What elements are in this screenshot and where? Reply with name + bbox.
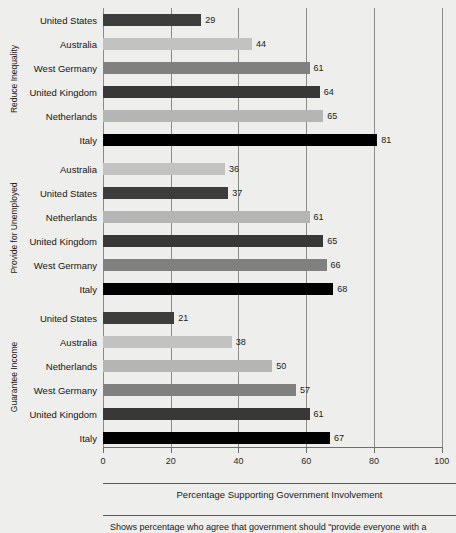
bar xyxy=(103,312,174,324)
x-axis-title: Percentage Supporting Government Involve… xyxy=(103,489,456,500)
bar-row: United States29 xyxy=(0,8,456,32)
bar-chart: 020406080100 Reduce InequalityUnited Sta… xyxy=(0,0,456,533)
bar-row: Netherlands61 xyxy=(0,205,456,229)
tick-label-40: 40 xyxy=(233,456,243,466)
bar-value-label: 36 xyxy=(229,164,239,174)
bar-row: Australia38 xyxy=(0,330,456,354)
bar xyxy=(103,62,310,74)
bar-value-label: 64 xyxy=(324,87,334,97)
bar-row: Netherlands65 xyxy=(0,104,456,128)
bar-row: Netherlands50 xyxy=(0,354,456,378)
tick-label-20: 20 xyxy=(166,456,176,466)
bar-row: United States21 xyxy=(0,306,456,330)
bar-row: West Germany57 xyxy=(0,378,456,402)
bar-category-label: Australia xyxy=(60,164,97,175)
bar-value-label: 61 xyxy=(314,212,324,222)
bar xyxy=(103,408,310,420)
bar-row: Italy68 xyxy=(0,277,456,301)
bar-row: Italy67 xyxy=(0,426,456,450)
bar-row: Italy81 xyxy=(0,128,456,152)
bar-category-label: Italy xyxy=(80,284,97,295)
bar-value-label: 37 xyxy=(232,188,242,198)
bar-category-label: West Germany xyxy=(34,63,97,74)
axis-title-rule-top xyxy=(103,483,456,484)
chart-footnote: Shows percentage who agree that governme… xyxy=(110,521,456,533)
bar xyxy=(103,259,327,271)
bar-category-label: Australia xyxy=(60,337,97,348)
bar-category-label: Italy xyxy=(80,433,97,444)
bar-value-label: 66 xyxy=(331,260,341,270)
bar-row: Australia44 xyxy=(0,32,456,56)
bar xyxy=(103,360,272,372)
bar-category-label: United Kingdom xyxy=(29,409,97,420)
bar xyxy=(103,384,296,396)
bar xyxy=(103,38,252,50)
bar xyxy=(103,187,228,199)
bar-category-label: Netherlands xyxy=(46,361,97,372)
bar-category-label: Netherlands xyxy=(46,212,97,223)
bar-category-label: Australia xyxy=(60,39,97,50)
bar-value-label: 61 xyxy=(314,63,324,73)
bar-value-label: 44 xyxy=(256,39,266,49)
bar xyxy=(103,86,320,98)
bar-value-label: 50 xyxy=(276,361,286,371)
bar-category-label: Netherlands xyxy=(46,111,97,122)
bar-row: United Kingdom65 xyxy=(0,229,456,253)
bar-row: United Kingdom64 xyxy=(0,80,456,104)
bar xyxy=(103,211,310,223)
bar-row: West Germany66 xyxy=(0,253,456,277)
tick-label-60: 60 xyxy=(301,456,311,466)
bar xyxy=(103,134,377,146)
bar xyxy=(103,163,225,175)
bar-category-label: West Germany xyxy=(34,385,97,396)
bar-value-label: 68 xyxy=(337,284,347,294)
bar-value-label: 38 xyxy=(236,337,246,347)
bar-value-label: 57 xyxy=(300,385,310,395)
bar-value-label: 61 xyxy=(314,409,324,419)
bar-row: Australia36 xyxy=(0,157,456,181)
bar-value-label: 65 xyxy=(327,236,337,246)
bar-value-label: 21 xyxy=(178,313,188,323)
bar-category-label: United States xyxy=(40,15,97,26)
bar-category-label: West Germany xyxy=(34,260,97,271)
bar-value-label: 29 xyxy=(205,15,215,25)
bar xyxy=(103,336,232,348)
bar-value-label: 81 xyxy=(381,135,391,145)
bar-category-label: United Kingdom xyxy=(29,236,97,247)
panel-0: Reduce InequalityUnited States29Australi… xyxy=(0,8,456,152)
bar-row: United States37 xyxy=(0,181,456,205)
bar xyxy=(103,432,330,444)
bar-category-label: United States xyxy=(40,188,97,199)
bar-value-label: 67 xyxy=(334,433,344,443)
axis-title-rule-bottom xyxy=(103,515,456,516)
bar xyxy=(103,283,333,295)
panel-1: Provide for UnemployedAustralia36United … xyxy=(0,157,456,301)
bar-category-label: Italy xyxy=(80,135,97,146)
bar-category-label: United States xyxy=(40,313,97,324)
tick-label-100: 100 xyxy=(434,456,449,466)
bar-row: United Kingdom61 xyxy=(0,402,456,426)
tick-label-0: 0 xyxy=(100,456,105,466)
bar xyxy=(103,110,323,122)
bar-category-label: United Kingdom xyxy=(29,87,97,98)
bar xyxy=(103,235,323,247)
tick-label-80: 80 xyxy=(369,456,379,466)
panel-2: Guarantee IncomeUnited States21Australia… xyxy=(0,306,456,450)
bar xyxy=(103,14,201,26)
bar-value-label: 65 xyxy=(327,111,337,121)
bar-row: West Germany61 xyxy=(0,56,456,80)
